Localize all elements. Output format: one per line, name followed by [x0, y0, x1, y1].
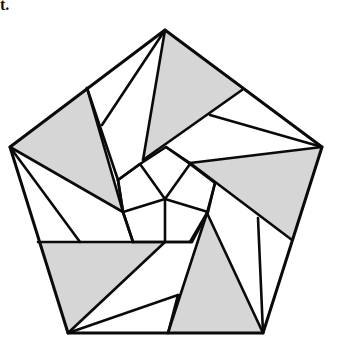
dissection-line	[140, 164, 165, 199]
shaded-regions	[10, 30, 322, 333]
dissection-line	[165, 199, 208, 212]
dissection-line	[210, 115, 322, 147]
dissection-line	[123, 199, 165, 212]
shaded-triangle	[38, 242, 165, 333]
pentagon-dissection-figure	[0, 0, 338, 352]
dissection-line	[258, 218, 263, 333]
dissection-line	[165, 164, 190, 199]
